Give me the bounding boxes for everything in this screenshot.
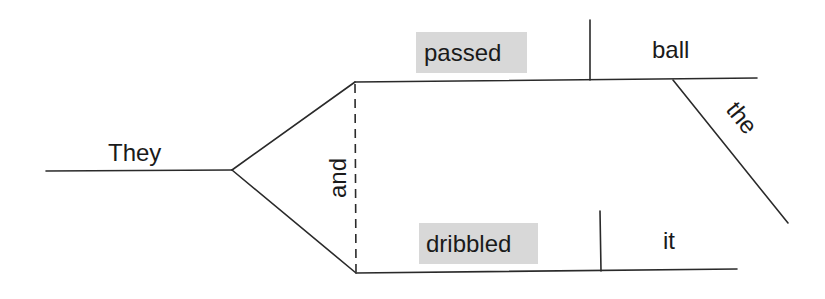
subject-baseline — [46, 170, 232, 171]
modifier-slant-line — [673, 80, 788, 223]
lower-verb-word: dribbled — [426, 230, 511, 257]
lower-object-word: it — [663, 227, 675, 254]
upper-fork-branch — [232, 82, 355, 170]
subject-word: They — [108, 139, 161, 166]
upper-predicate-baseline — [355, 78, 757, 82]
upper-verb-word: passed — [424, 39, 501, 66]
upper-object-word: ball — [652, 36, 689, 63]
conjunction-dashed-line — [355, 84, 356, 272]
conjunction-word: and — [324, 158, 351, 198]
modifier-word: the — [721, 96, 763, 139]
lower-predicate-baseline — [356, 269, 737, 273]
sentence-diagram: They and passed ball the dribbled it — [0, 0, 825, 299]
lower-verb-object-divider — [600, 211, 601, 271]
